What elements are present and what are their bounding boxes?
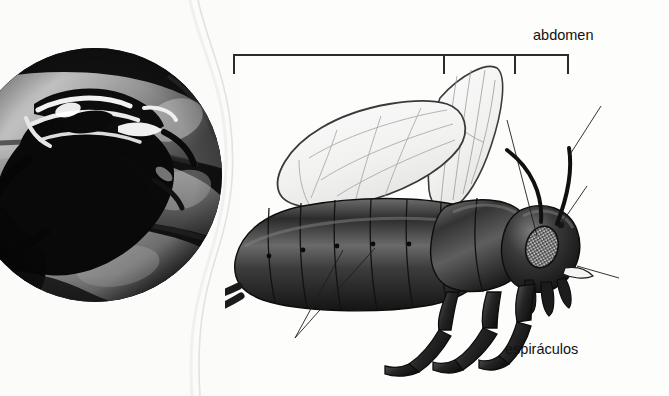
body-regions-bracket-lines [234,55,568,73]
insect-diagram-panel: abdomen tórax cabeza ojo compuesto anten… [225,0,669,396]
photo-panel [0,0,240,396]
figure-canvas: abdomen tórax cabeza ojo compuesto anten… [0,0,669,396]
insect-diagram-svg [225,0,669,396]
bracket-label-abdomen: abdomen [533,27,593,43]
callout-label-espiraculos: espiráculos [505,341,578,357]
wings [278,66,503,210]
